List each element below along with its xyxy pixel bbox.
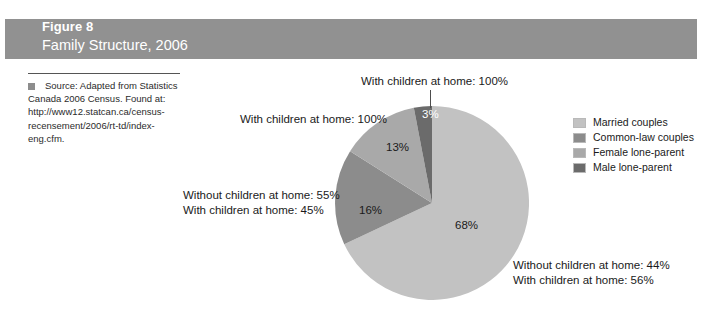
legend-item-common-law-couples: Common-law couples [573, 130, 694, 145]
legend-swatch-icon [573, 133, 586, 143]
annotation-male-lone-parent: With children at home: 100% [361, 74, 508, 89]
chart-legend: Married couples Common-law couples Femal… [573, 115, 694, 175]
figure-title: Family Structure, 2006 [42, 38, 188, 53]
annotation-line: With children at home: 45% [183, 203, 340, 218]
pie-value-label-male-lone-parent: 3% [422, 109, 439, 121]
pie-chart [335, 106, 529, 300]
source-divider [28, 73, 180, 74]
legend-item-married-couples: Married couples [573, 115, 694, 130]
pie-value-label-married-couples: 68% [455, 220, 478, 232]
annotation-common-law-couples: Without children at home: 55% With child… [183, 188, 340, 217]
annotation-line: With children at home: 56% [513, 273, 670, 288]
legend-swatch-icon [573, 148, 586, 158]
pie-value-label-female-lone-parent: 13% [386, 142, 409, 154]
legend-label: Female lone-parent [593, 147, 684, 158]
source-note: Source: Adapted from Statistics Canada 2… [28, 79, 188, 145]
legend-item-female-lone-parent: Female lone-parent [573, 145, 694, 160]
annotation-female-lone-parent: With children at home: 100% [240, 112, 387, 127]
pie-value-label-common-law-couples: 16% [359, 205, 382, 217]
legend-swatch-icon [573, 118, 586, 128]
pie-chart-svg [335, 106, 529, 300]
legend-label: Male lone-parent [593, 162, 672, 173]
legend-label: Common-law couples [593, 132, 694, 143]
legend-swatch-icon [573, 163, 586, 173]
annotation-leader-line [430, 90, 431, 108]
legend-item-male-lone-parent: Male lone-parent [573, 160, 694, 175]
annotation-married-couples: Without children at home: 44% With child… [513, 258, 670, 287]
annotation-line: Without children at home: 55% [183, 188, 340, 203]
annotation-line: Without children at home: 44% [513, 258, 670, 273]
figure-number-label: Figure 8 [42, 20, 93, 33]
legend-label: Married couples [593, 117, 668, 128]
